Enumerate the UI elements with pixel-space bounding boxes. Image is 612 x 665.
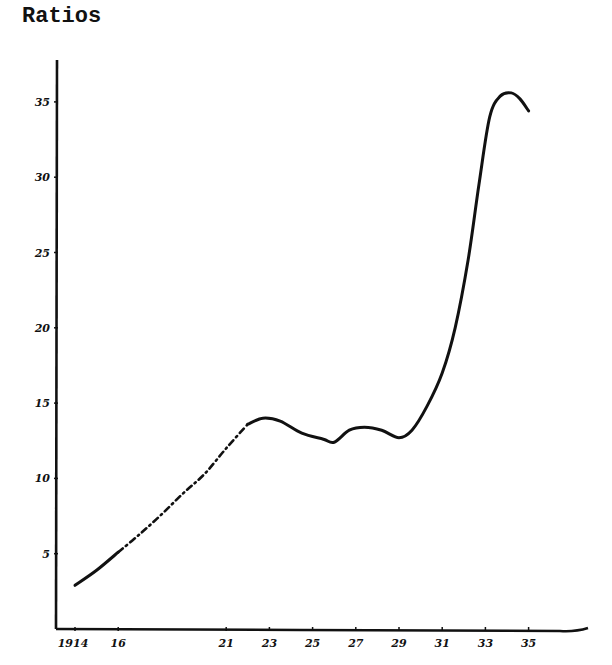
y-tick-label: 5: [42, 548, 50, 561]
x-tick-label: 1914: [58, 637, 89, 650]
x-tick-label: 23: [261, 637, 278, 650]
y-tick-label: 15: [35, 397, 50, 410]
x-tick-label: 31: [435, 637, 450, 650]
y-tick-label: 25: [34, 247, 50, 260]
data-series: [75, 93, 529, 586]
series-line-dashdot: [118, 424, 248, 552]
series-line-solid: [75, 552, 118, 585]
y-tick-label: 10: [35, 472, 51, 485]
y-tick-label: 30: [35, 171, 51, 184]
x-axis-line: [56, 628, 588, 631]
y-axis-ticks: 5101520253035: [34, 96, 58, 561]
x-tick-label: 25: [304, 637, 320, 650]
x-tick-label: 21: [218, 637, 234, 650]
x-tick-label: 29: [390, 637, 407, 650]
y-tick-label: 20: [34, 322, 51, 335]
x-tick-label: 35: [521, 637, 536, 650]
axes: [56, 60, 588, 631]
y-axis-line: [56, 60, 57, 629]
y-tick-label: 35: [35, 96, 50, 109]
line-chart: 5101520253035 1914162123252729313335: [0, 0, 612, 665]
x-tick-label: 27: [347, 637, 364, 650]
series-line-solid: [248, 93, 529, 443]
x-tick-label: 16: [111, 637, 127, 650]
x-tick-label: 33: [478, 637, 494, 650]
